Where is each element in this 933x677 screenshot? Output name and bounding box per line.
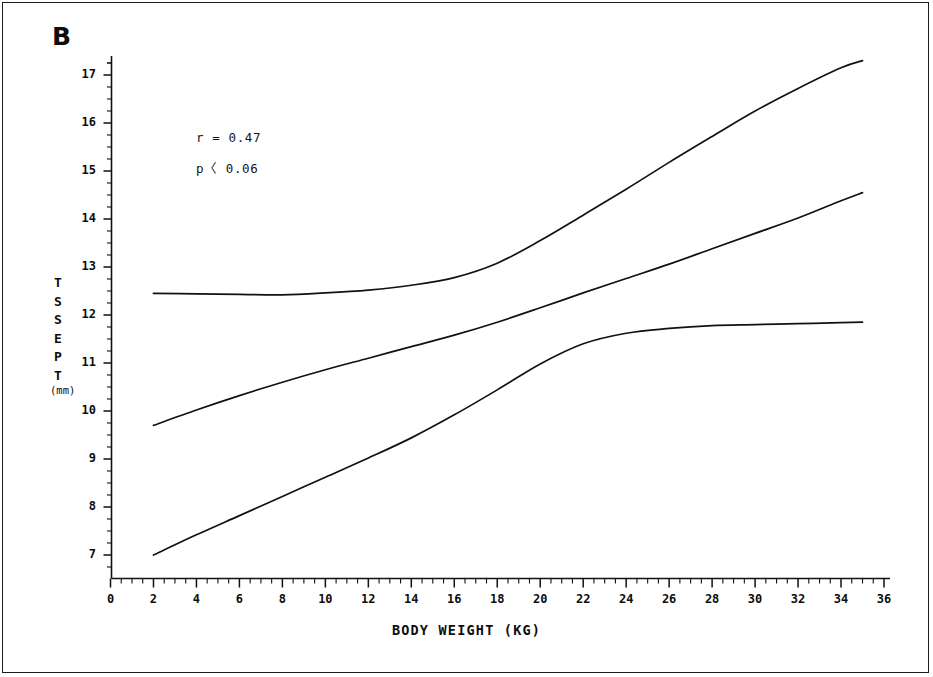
x-axis-tick-label: 18 (477, 592, 517, 606)
x-axis-tick-label: 12 (348, 592, 388, 606)
x-axis-tick-label: 16 (434, 592, 474, 606)
x-axis-tick-label: 8 (262, 592, 302, 606)
curve-lower-confidence-band (153, 322, 862, 555)
x-axis-tick-label: 22 (563, 592, 603, 606)
x-axis-tick-label: 14 (391, 592, 431, 606)
y-axis-tick-label: 11 (62, 355, 96, 369)
x-axis-tick-label: 10 (305, 592, 345, 606)
y-axis-tick-label: 15 (62, 163, 96, 177)
y-axis-tick-label: 8 (62, 499, 96, 513)
x-axis-tick-label: 0 (91, 592, 131, 606)
axis-lines (112, 56, 891, 579)
y-axis-tick-label: 14 (62, 211, 96, 225)
x-axis-tick-label: 36 (864, 592, 904, 606)
y-axis-tick-label: 13 (62, 259, 96, 273)
data-curves (153, 61, 862, 555)
y-axis-ticks (104, 63, 112, 567)
x-axis-tick-label: 34 (821, 592, 861, 606)
y-axis-tick-label: 16 (62, 115, 96, 129)
x-axis-tick-label: 6 (219, 592, 259, 606)
x-axis-ticks (111, 579, 885, 588)
curve-upper-confidence-band (153, 61, 862, 295)
x-axis-tick-label: 26 (649, 592, 689, 606)
x-axis-tick-label: 32 (778, 592, 818, 606)
y-axis-tick-label: 12 (62, 307, 96, 321)
curve-regression-line (153, 193, 862, 426)
plot-area (0, 0, 933, 677)
y-axis-tick-label: 17 (62, 67, 96, 81)
x-axis-tick-label: 20 (520, 592, 560, 606)
y-axis-tick-label: 9 (62, 451, 96, 465)
x-axis-tick-label: 2 (133, 592, 173, 606)
x-axis-tick-label: 24 (606, 592, 646, 606)
x-axis-tick-label: 28 (692, 592, 732, 606)
y-axis-tick-label: 7 (62, 547, 96, 561)
x-axis-tick-label: 30 (735, 592, 775, 606)
x-axis-tick-label: 4 (176, 592, 216, 606)
y-axis-tick-label: 10 (62, 403, 96, 417)
figure-panel: B r = 0.47 p〈 0.06 TSSEPT (mm) BODY WEIG… (0, 0, 933, 677)
